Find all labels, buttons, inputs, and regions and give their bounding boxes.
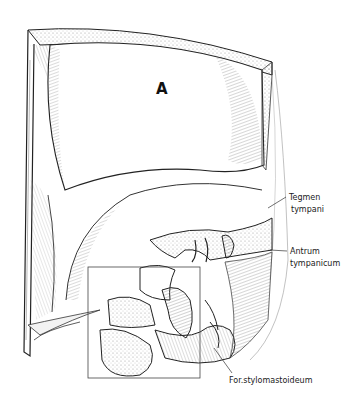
tegmen-label-line2: tympani [291, 205, 324, 215]
region-a-label: A [156, 80, 168, 98]
antrum-label-line2: tympanicum [290, 259, 340, 269]
tegmen-label-line1: Tegmen [289, 193, 320, 203]
tegmen-tympani [150, 218, 272, 260]
antrum-label-line1: Antrum [290, 247, 320, 257]
ossicle [162, 288, 192, 338]
foramen-label: For.stylomastoideum [229, 376, 312, 386]
tegmen-leader [268, 197, 286, 208]
anatomical-figure: A Tegmen tympani Antrum tympanicum For.s… [0, 0, 356, 409]
